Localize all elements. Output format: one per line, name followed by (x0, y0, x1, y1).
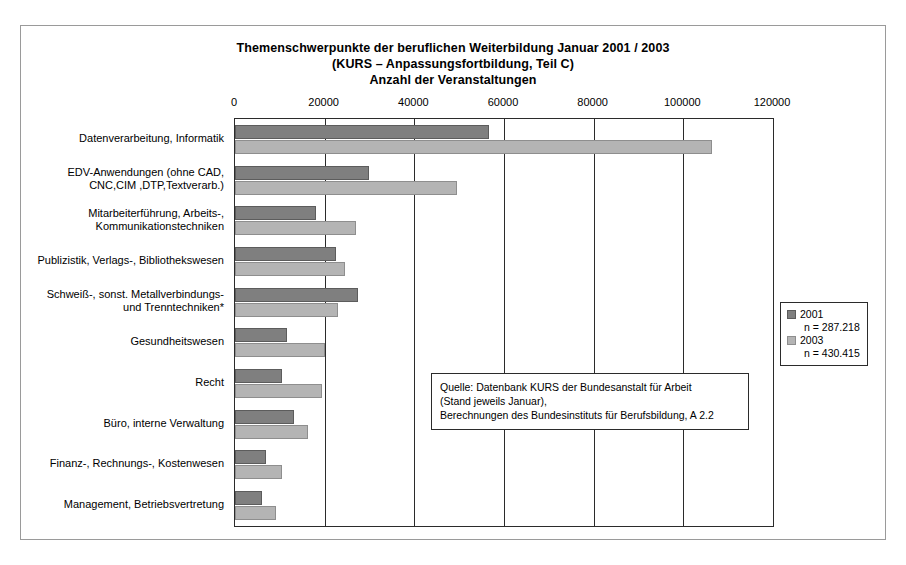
bar-2003 (235, 221, 356, 235)
bar-group (235, 247, 773, 276)
bar-2003 (235, 140, 712, 154)
category-label: Datenverarbeitung, Informatik (19, 132, 224, 145)
x-tick-label: 120000 (742, 96, 802, 108)
source-note-line-1: Quelle: Datenbank KURS der Bundesanstalt… (440, 380, 740, 394)
x-tick-label: 60000 (473, 96, 533, 108)
x-tick-label: 0 (204, 96, 264, 108)
bar-2001 (235, 247, 336, 261)
x-tick-label: 40000 (383, 96, 443, 108)
bar-group (235, 450, 773, 479)
chart-figure: Themenschwerpunkte der beruflichen Weite… (20, 25, 886, 540)
bar-2003 (235, 425, 308, 439)
bar-group (235, 328, 773, 357)
bar-group (235, 125, 773, 154)
category-label: Gesundheitswesen (19, 335, 224, 348)
legend-item: 2003 (787, 334, 860, 347)
category-label: Management, Betriebsvertretung (19, 498, 224, 511)
bar-2001 (235, 288, 358, 302)
bar-2003 (235, 465, 282, 479)
category-label: Finanz-, Rechnungs-, Kostenwesen (19, 457, 224, 470)
category-label: Publizistik, Verlags-, Bibliothekswesen (19, 254, 224, 267)
bar-2001 (235, 166, 369, 180)
category-label: EDV-Anwendungen (ohne CAD, CNC,CIM ,DTP,… (19, 166, 224, 192)
bar-2001 (235, 369, 282, 383)
legend-label: 2003 (800, 334, 823, 347)
category-label: Büro, interne Verwaltung (19, 417, 224, 430)
bar-2001 (235, 491, 262, 505)
bar-group (235, 491, 773, 520)
bar-2001 (235, 450, 266, 464)
bar-group (235, 166, 773, 195)
legend-swatch-icon (787, 310, 796, 319)
bar-2003 (235, 343, 325, 357)
chart-legend: 2001n = 287.2182003n = 430.415 (780, 302, 868, 366)
chart-title: Themenschwerpunkte der beruflichen Weite… (21, 40, 885, 88)
category-label: Schweiß-, sonst. Metallverbindungs- und … (19, 288, 224, 314)
bar-2003 (235, 506, 276, 520)
source-note-line-2: (Stand jeweils Januar), (440, 394, 740, 408)
y-axis-category-labels: Datenverarbeitung, InformatikEDV-Anwendu… (21, 118, 229, 525)
bar-2001 (235, 410, 294, 424)
bar-group (235, 288, 773, 317)
bar-2003 (235, 181, 457, 195)
legend-count: n = 430.415 (804, 347, 860, 360)
legend-count: n = 287.218 (804, 321, 860, 334)
legend-item: 2001 (787, 308, 860, 321)
bar-2003 (235, 384, 322, 398)
legend-swatch-icon (787, 336, 796, 345)
bar-2003 (235, 262, 345, 276)
bar-group (235, 206, 773, 235)
bar-2003 (235, 303, 338, 317)
bar-2001 (235, 328, 287, 342)
source-note: Quelle: Datenbank KURS der Bundesanstalt… (431, 373, 749, 430)
title-line-3: Anzahl der Veranstaltungen (21, 72, 885, 88)
bar-2001 (235, 206, 316, 220)
title-line-1: Themenschwerpunkte der beruflichen Weite… (21, 40, 885, 56)
plot-area (234, 118, 774, 527)
x-axis-tick-labels: 020000400006000080000100000120000 (234, 96, 812, 112)
category-label: Recht (19, 376, 224, 389)
x-tick-label: 100000 (652, 96, 712, 108)
legend-label: 2001 (800, 308, 823, 321)
source-note-line-3: Berechnungen des Bundesinstituts für Ber… (440, 408, 740, 422)
bar-2001 (235, 125, 489, 139)
category-label: Mitarbeiterführung, Arbeits-, Kommunikat… (19, 207, 224, 233)
x-tick-label: 80000 (563, 96, 623, 108)
x-tick-label: 20000 (294, 96, 354, 108)
title-line-2: (KURS – Anpassungsfortbildung, Teil C) (21, 56, 885, 72)
